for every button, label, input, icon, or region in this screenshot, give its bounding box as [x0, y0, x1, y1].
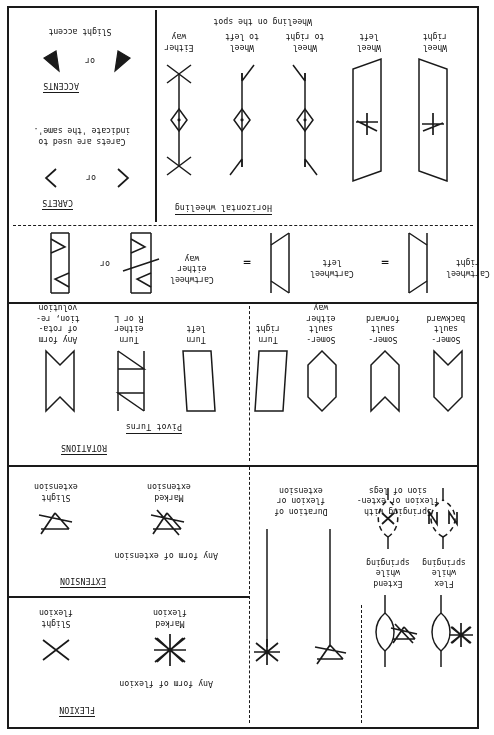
flexion-header: FLEXION — [59, 705, 95, 717]
slight-extension-label: Slight extension — [18, 482, 94, 503]
cartwheel-right-label: Cartwheel right — [435, 258, 494, 279]
turn-either-way-symbol — [113, 351, 149, 411]
wheel-right-parallelogram-symbol — [415, 59, 451, 181]
somersault-either-way-symbol — [305, 351, 339, 411]
accents-header: ACCENTS — [43, 81, 79, 93]
spring-flex-label: Flex while springing — [409, 558, 479, 590]
somersault-backward-symbol — [431, 351, 465, 411]
duration-caption: Duration of flexion or extension — [251, 486, 351, 518]
turn-left-label: Turn left — [158, 324, 234, 345]
accent-wedge-left-icon — [111, 47, 135, 73]
cartwheel-left-label: Cartwheel left — [299, 258, 365, 279]
wheel-either-way-symbol — [163, 59, 195, 181]
cartwheel-right-equals: = — [381, 257, 389, 270]
wheel-to-left-label: Wheel to left — [206, 32, 278, 53]
caret-right-icon — [42, 167, 60, 189]
cartwheel-either-way-label: Cartwheel either way — [159, 254, 225, 286]
slight-extension-symbol — [37, 507, 75, 537]
turn-right-symbol — [253, 351, 289, 411]
cartwheel-either-way-symbol — [121, 233, 161, 293]
wheel-to-right-label: Wheel to right — [269, 32, 341, 53]
wheel-to-right-symbol — [289, 59, 321, 181]
slight-flexion-label: Slight flexion — [18, 608, 94, 629]
divider-duration-springing — [361, 605, 362, 723]
duration-flexion-bar-symbol — [252, 527, 282, 667]
somersault-forward-symbol — [368, 351, 402, 411]
sheet-border: FLEXION Any form of flexion Slight flexi… — [7, 6, 479, 729]
springing-caption: Springing with flexion or exten- sion of… — [343, 486, 453, 518]
slight-flexion-symbol — [39, 635, 73, 665]
cartwheel-left-symbol — [261, 233, 299, 293]
cartwheel-either-way-alt-symbol — [43, 233, 77, 293]
cartwheel-right-symbol — [399, 233, 437, 293]
marked-flexion-label: Marked flexion — [132, 608, 208, 629]
carets-description: Carets are used to indicate 'the same'. — [17, 126, 147, 147]
divider-flexion-duration — [249, 467, 250, 723]
wheeling-on-the-spot-caption: Wheeling on the spot — [213, 17, 312, 28]
cartwheel-left-equals: = — [243, 257, 251, 270]
rotation-any-form-symbol — [42, 351, 78, 411]
extension-any-form-caption: Any form of extension — [114, 551, 218, 562]
spring-flex-solid-ring-symbol — [427, 593, 473, 669]
pivot-turns-subheader: Pivot Turns — [126, 422, 182, 434]
marked-flexion-symbol — [152, 633, 188, 667]
wheel-left-parallelogram-symbol — [349, 59, 385, 181]
caret-left-icon — [114, 167, 132, 189]
divider-extension-flexion — [9, 596, 250, 598]
marked-extension-label: Marked extension — [131, 482, 207, 503]
accents-caption: Slight accent — [20, 27, 140, 38]
accent-wedge-right-icon — [39, 47, 63, 73]
rotation-any-form-label: Any form of rota- tion, re- volution — [20, 303, 96, 345]
flexion-any-form-caption: Any form of flexion — [119, 679, 213, 690]
carets-or-label: or — [86, 173, 96, 183]
cartwheel-or-label: or — [100, 259, 110, 269]
turn-left-symbol — [181, 351, 217, 411]
horizontal-wheeling-header: Horizontal wheeling — [175, 203, 272, 215]
wheel-left-label: Wheel left — [333, 32, 405, 53]
extension-header: EXTENSION — [60, 576, 106, 588]
spring-extend-solid-ring-symbol — [369, 593, 415, 669]
wheel-either-way-label: Either way — [143, 32, 215, 53]
somersault-backward-label: Somer- sault backward — [408, 314, 484, 346]
wheel-to-left-symbol — [226, 59, 258, 181]
turn-either-way-label: Turn either R or L — [91, 314, 167, 346]
carets-header: CARETS — [42, 198, 73, 210]
wheel-right-label: Wheel right — [399, 32, 471, 53]
rotations-header: ROTATIONS — [61, 443, 107, 455]
marked-extension-symbol — [149, 507, 187, 537]
accents-or-label: or — [85, 56, 95, 66]
duration-extension-bar-symbol — [313, 527, 347, 667]
